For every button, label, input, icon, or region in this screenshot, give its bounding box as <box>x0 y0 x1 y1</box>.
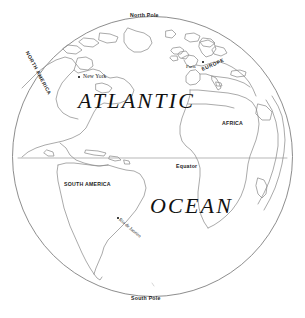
globe-outline-circle <box>13 17 293 297</box>
globe-map: North Pole South Pole Equator NORTH AMER… <box>0 0 305 318</box>
south-atlantic-faint-line <box>152 283 154 286</box>
caribbean-island-hispaniola <box>109 156 121 161</box>
svalbard-island <box>166 30 176 38</box>
globe-graphic <box>0 0 305 318</box>
madagascar-island <box>256 178 267 198</box>
arctic-island-d <box>185 33 200 42</box>
south-america-tip <box>94 274 102 280</box>
north-america-coastline <box>22 57 134 157</box>
central-america-coastline <box>60 143 108 166</box>
greenland-coastline <box>124 28 152 52</box>
europe-coastline <box>182 55 198 67</box>
caribbean-island-cuba <box>85 150 106 156</box>
caribbean-island-small-a <box>124 160 130 164</box>
arctic-island-c <box>63 45 82 54</box>
eastern-limb-coastline <box>264 96 285 210</box>
hudson-bay <box>76 57 93 70</box>
south-america-north-coastline <box>58 163 108 166</box>
arctic-island-a <box>99 33 118 43</box>
iberia-coastline <box>186 70 200 85</box>
arctic-island-b <box>79 38 99 47</box>
africa-west-coastline <box>180 90 208 228</box>
caribbean-island-small-b <box>44 150 54 156</box>
south-america-west-coastline <box>57 165 94 274</box>
ireland-island <box>170 56 178 61</box>
iceland-island <box>171 47 184 54</box>
north-america-interior-line <box>56 70 78 119</box>
africa-coastline <box>190 90 259 228</box>
coastlines <box>18 28 287 286</box>
great-lakes-region <box>96 83 112 93</box>
africa-interior-line <box>188 104 234 108</box>
south-america-coastline <box>94 165 146 274</box>
